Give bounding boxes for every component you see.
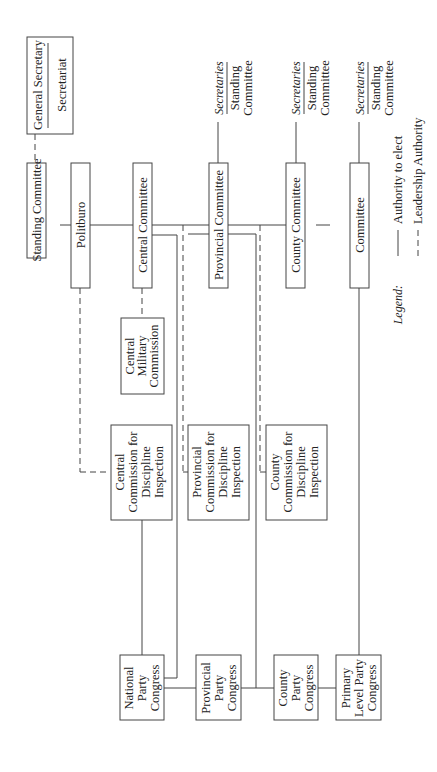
county-side-note: Secretaries Standing Committee <box>289 60 332 116</box>
npc-line-2: Party <box>135 674 149 701</box>
politburo-label: Politburo <box>74 202 88 249</box>
ppc-line-1: Provincial <box>199 662 213 714</box>
primary-committee-sub-label: Committee <box>382 60 396 116</box>
legend-dashed-label: Leadership Authority <box>411 117 425 224</box>
standing-committee-box: Standing Committee <box>27 158 46 262</box>
ccdi-line-1: Central <box>113 453 127 490</box>
ccdi-line-4: Inspection <box>152 445 166 498</box>
county-committee-sub-label: Committee <box>318 60 332 116</box>
cocdi-line-2: Commission for <box>281 431 295 513</box>
party-organization-diagram: General Secretary Secretariat Standing C… <box>0 0 437 772</box>
npc-line-3: Congress <box>148 665 162 712</box>
cpc-line-1: County <box>276 669 290 707</box>
central-military-commission-box: Central Military Commission <box>121 318 164 394</box>
ppc-line-2: Party <box>212 674 226 701</box>
county-committee-box: County Committee <box>286 163 305 288</box>
national-party-congress-box: National Party Congress <box>120 655 164 720</box>
committee-label: Committee <box>353 197 367 253</box>
cocdi-line-3: Discipline <box>294 446 308 498</box>
provincial-committee-sub-label: Committee <box>241 60 255 116</box>
provincial-secretaries-label: Secretaries <box>212 61 226 115</box>
primary-secretaries-label: Secretaries <box>353 61 367 115</box>
county-standing-label: Standing <box>305 65 319 110</box>
provincial-side-note: Secretaries Standing Committee <box>212 60 255 116</box>
pcdi-line-3: Discipline <box>216 446 230 498</box>
plpc-line-2: Level Party <box>352 658 366 717</box>
provincial-committee-label: Provincial Committee <box>212 170 226 281</box>
secretariat-label: Secretariat <box>55 58 69 112</box>
pcdi-line-2: Commission for <box>203 431 217 513</box>
standing-committee-label: Standing Committee <box>30 158 44 262</box>
ccdi-line-3: Discipline <box>139 446 153 498</box>
provincial-committee-box: Provincial Committee <box>209 163 228 288</box>
cpc-line-3: Congress <box>302 665 316 712</box>
ccdi-line-2: Commission for <box>126 431 140 513</box>
cpc-line-2: Party <box>289 674 303 701</box>
cmc-line-3: Commission <box>147 324 161 388</box>
ppc-line-3: Congress <box>225 665 239 712</box>
legend-solid-label: Authority to elect <box>391 135 405 224</box>
provincial-standing-label: Standing <box>228 65 242 110</box>
politburo-box: Politburo <box>71 163 90 288</box>
county-secretaries-label: Secretaries <box>289 61 303 115</box>
primary-side-note: Secretaries Standing Committee <box>353 60 396 116</box>
provincial-cdi-box: Provincial Commission for Discipline Ins… <box>188 425 249 520</box>
pcdi-line-4: Inspection <box>229 445 243 498</box>
county-committee-label: County Committee <box>289 177 303 273</box>
cocdi-line-4: Inspection <box>307 445 321 498</box>
pcdi-line-1: Provincial <box>190 446 204 498</box>
general-secretary-box: General Secretary Secretariat <box>27 37 73 134</box>
central-committee-box: Central Committee <box>133 163 152 288</box>
primary-level-party-congress-box: Primary Level Party Congress <box>336 655 381 720</box>
central-committee-label: Central Committee <box>136 177 150 273</box>
county-cdi-box: County Commission for Discipline Inspect… <box>266 425 327 520</box>
npc-line-1: National <box>122 666 136 710</box>
legend-title: Legend: <box>391 285 405 325</box>
central-cdi-box: Central Commission for Discipline Inspec… <box>111 425 172 520</box>
cocdi-line-1: County <box>268 453 282 491</box>
county-party-congress-box: County Party Congress <box>274 655 318 720</box>
plpc-line-3: Congress <box>365 665 379 712</box>
general-secretary-label: General Secretary <box>31 39 45 130</box>
plpc-line-1: Primary <box>339 667 353 708</box>
primary-standing-label: Standing <box>369 65 383 110</box>
legend: Legend: Authority to elect Leadership Au… <box>391 117 425 326</box>
provincial-party-congress-box: Provincial Party Congress <box>196 655 241 720</box>
committee-box: Committee <box>350 163 369 288</box>
